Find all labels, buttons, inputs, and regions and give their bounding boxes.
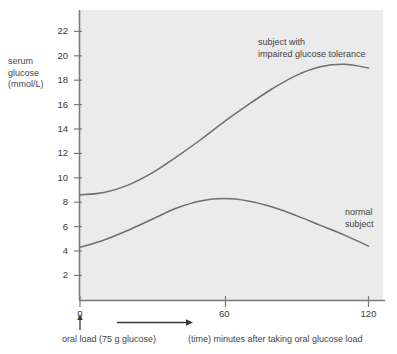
- y-tick-label: 6: [48, 221, 68, 232]
- y-tick-label: 18: [48, 74, 68, 85]
- y-tick-label: 22: [48, 25, 68, 36]
- y-tick-label: 4: [48, 245, 68, 256]
- y-tick-label: 20: [48, 50, 68, 61]
- x-tick-label: 60: [211, 308, 237, 319]
- y-tick-label: 10: [48, 172, 68, 183]
- x-tick-label: 120: [356, 308, 382, 319]
- annotation-impaired-glucose-tolerance: subject with impaired glucose tolerance: [258, 37, 366, 60]
- caption-time-axis: (time) minutes after taking oral glucose…: [188, 334, 363, 346]
- y-tick-label: 8: [48, 196, 68, 207]
- y-tick-label: 12: [48, 147, 68, 158]
- x-tick-label: 0: [67, 308, 93, 319]
- caption-oral-load: oral load (75 g glucose): [62, 334, 156, 346]
- glucose-tolerance-chart: serum glucose (mmol/L) subject with impa…: [0, 0, 397, 354]
- y-tick-label: 2: [48, 269, 68, 280]
- y-tick-label: 14: [48, 123, 68, 134]
- y-tick-label: 16: [48, 99, 68, 110]
- time-direction-arrow-icon: [117, 319, 193, 325]
- annotation-normal-subject: normal subject: [345, 207, 374, 230]
